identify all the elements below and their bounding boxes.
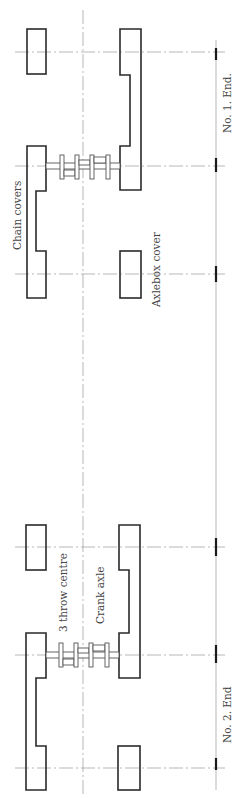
locomotive-frame-plan-drawing: No. 1. End. No. 2. End Chain covers Axle… [0,0,244,799]
label-no1-end: No. 1. End. [221,73,233,133]
chain-cover-left-upper [27,146,46,298]
label-crank-axle: Crank axle [94,566,106,624]
label-chain-covers: Chain covers [11,181,23,250]
crank-axle-lower [46,643,119,667]
label-axlebox-cover: Axlebox cover [150,231,162,308]
axlebox-cover-left-top [27,29,46,74]
axlebox-cover-left-lower [26,525,46,570]
no1-end-assembly [27,29,141,298]
axlebox-cover-right-upper [120,251,141,298]
label-no2-end: No. 2. End [221,686,233,743]
label-three-throw-centre: 3 throw centre [57,553,69,632]
chain-cover-left-lower [26,633,46,790]
